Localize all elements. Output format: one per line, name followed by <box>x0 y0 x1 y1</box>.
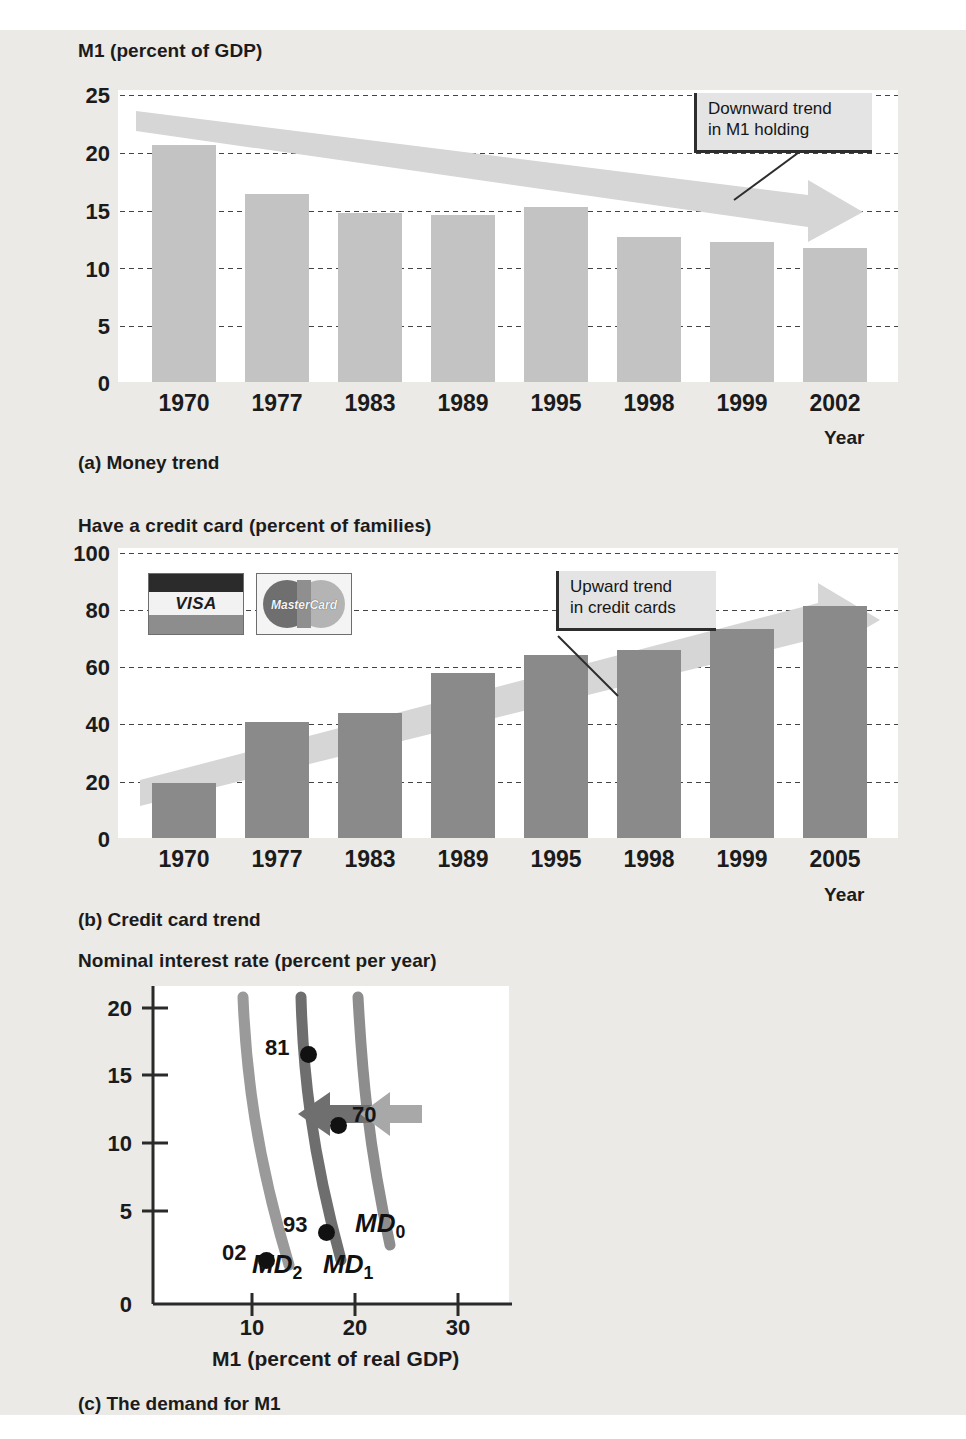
bar-b-1989 <box>431 673 495 838</box>
data-point-label-81: 81 <box>265 1035 289 1061</box>
bar-a-1970 <box>152 145 216 382</box>
y-tick-a-20: 20 <box>58 141 110 167</box>
y-tick-a-15: 15 <box>58 199 110 225</box>
figure-page: M1 (percent of GDP) 25 20 15 10 5 0 Down… <box>0 0 966 1439</box>
bar-b-1983 <box>338 713 402 838</box>
bar-a-1995 <box>524 207 588 382</box>
x-label-b-1970: 1970 <box>140 846 228 873</box>
x-tick-c-30: 30 <box>418 1315 498 1341</box>
y-tick-b-40: 40 <box>46 712 110 738</box>
x-label-b-2005: 2005 <box>791 846 879 873</box>
y-tick-a-10: 10 <box>58 257 110 283</box>
y-tick-c-20: 20 <box>78 996 132 1022</box>
x-label-b-1999: 1999 <box>698 846 786 873</box>
curve-label-md1-sub: 1 <box>363 1263 373 1283</box>
visa-logo-label: VISA <box>149 593 243 615</box>
bar-a-1989 <box>431 215 495 382</box>
curve-label-md2-text: MD <box>252 1249 292 1279</box>
x-label-b-1998: 1998 <box>605 846 693 873</box>
panel-a-callout: Downward trend in M1 holding <box>694 93 872 153</box>
bar-a-1983 <box>338 213 402 382</box>
credit-card-logos: VISA MasterCard <box>148 573 358 637</box>
panel-a-caption: (a) Money trend <box>78 452 219 474</box>
panel-c-xaxis-title: M1 (percent of real GDP) <box>212 1347 459 1371</box>
data-point-label-02: 02 <box>222 1240 246 1266</box>
x-label-a-2002: 2002 <box>791 390 879 417</box>
bar-b-2005 <box>803 606 867 838</box>
x-tick-c-10: 10 <box>212 1315 292 1341</box>
bar-b-1977 <box>245 722 309 838</box>
x-label-a-1983: 1983 <box>326 390 414 417</box>
data-point-label-93: 93 <box>283 1212 307 1238</box>
panel-b-callout: Upward trend in credit cards <box>556 571 716 631</box>
y-tick-b-80: 80 <box>46 598 110 624</box>
bar-b-1970 <box>152 783 216 838</box>
x-label-a-1995: 1995 <box>512 390 600 417</box>
data-point-81 <box>300 1046 317 1063</box>
y-tick-c-5: 5 <box>78 1199 132 1225</box>
curve-label-md0-text: MD <box>355 1208 395 1238</box>
curve-label-md1: MD1 <box>323 1249 373 1284</box>
curve-label-md0-sub: 0 <box>395 1222 405 1242</box>
visa-logo-icon: VISA <box>148 573 244 635</box>
x-label-b-1983: 1983 <box>326 846 414 873</box>
curve-label-md2-sub: 2 <box>292 1263 302 1283</box>
y-tick-a-25: 25 <box>58 83 110 109</box>
panel-c-chart <box>100 980 520 1320</box>
curve-label-md0: MD0 <box>355 1208 405 1243</box>
x-label-a-1989: 1989 <box>419 390 507 417</box>
bar-a-2002 <box>803 248 867 382</box>
y-tick-b-60: 60 <box>46 655 110 681</box>
data-point-70 <box>330 1117 347 1134</box>
bar-a-1999 <box>710 242 774 382</box>
bar-b-1999 <box>710 629 774 838</box>
panel-a-title: M1 (percent of GDP) <box>78 40 263 62</box>
y-tick-a-0: 0 <box>58 371 110 397</box>
x-label-b-1995: 1995 <box>512 846 600 873</box>
y-tick-b-0: 0 <box>46 827 110 853</box>
panel-c-caption: (c) The demand for M1 <box>78 1393 281 1415</box>
x-label-b-1977: 1977 <box>233 846 321 873</box>
panel-c-title: Nominal interest rate (percent per year) <box>78 950 437 972</box>
data-point-93 <box>318 1224 335 1241</box>
y-tick-c-10: 10 <box>78 1131 132 1157</box>
data-point-label-70: 70 <box>352 1102 376 1128</box>
x-label-b-1989: 1989 <box>419 846 507 873</box>
panel-a-xaxis-title: Year <box>824 427 865 449</box>
visa-bottom-band <box>149 615 243 634</box>
mastercard-logo-label: MasterCard <box>257 596 351 614</box>
bar-a-1977 <box>245 194 309 382</box>
y-tick-a-5: 5 <box>58 314 110 340</box>
y-tick-c-15: 15 <box>78 1063 132 1089</box>
bar-a-1998 <box>617 237 681 382</box>
x-tick-c-20: 20 <box>315 1315 395 1341</box>
y-tick-c-0: 0 <box>78 1292 132 1318</box>
x-label-a-1999: 1999 <box>698 390 786 417</box>
panel-b-caption: (b) Credit card trend <box>78 909 261 931</box>
x-label-a-1977: 1977 <box>233 390 321 417</box>
curve-label-md2: MD2 <box>252 1249 302 1284</box>
y-tick-b-100: 100 <box>46 541 110 567</box>
visa-top-band <box>149 574 243 592</box>
panel-b-callout-leader <box>530 630 670 710</box>
panel-b-xaxis-title: Year <box>824 884 865 906</box>
mastercard-logo-icon: MasterCard <box>256 573 352 635</box>
x-label-a-1998: 1998 <box>605 390 693 417</box>
y-tick-b-20: 20 <box>46 770 110 796</box>
x-label-a-1970: 1970 <box>140 390 228 417</box>
panel-b-title: Have a credit card (percent of families) <box>78 515 432 537</box>
curve-label-md1-text: MD <box>323 1249 363 1279</box>
